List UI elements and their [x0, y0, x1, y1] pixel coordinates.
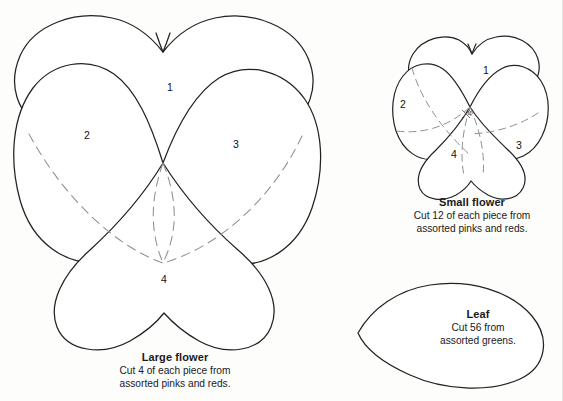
small-flower-piece-label-1: 1 [479, 65, 493, 76]
large-flower-piece-label-2: 2 [80, 130, 94, 141]
small-flower-center-mark-label: 4 [465, 110, 475, 117]
small-flower-piece-label-2: 2 [396, 99, 410, 110]
small-flower-caption: Small flower Cut 12 of each piece from a… [382, 196, 562, 235]
large-flower-caption-title: Large flower [60, 351, 290, 364]
large-flower-shape [14, 16, 321, 350]
small-flower-piece-label-4: 4 [447, 149, 461, 160]
large-flower-piece-label-3: 3 [229, 139, 243, 150]
small-flower-piece-label-3: 3 [512, 140, 526, 151]
large-flower-piece-label-1: 1 [163, 82, 177, 93]
small-flower-shape [393, 36, 549, 199]
small-flower-caption-line-2: assorted pinks and reds. [382, 223, 562, 235]
pattern-sheet: 1 2 3 4 1 2 3 4 4 Large flower Cut 4 of … [0, 0, 563, 401]
large-flower-caption-line-2: assorted pinks and reds. [60, 378, 290, 390]
leaf-caption-line-1: Cut 56 from [418, 322, 538, 334]
small-flower-caption-title: Small flower [382, 196, 562, 209]
small-flower-caption-line-1: Cut 12 of each piece from [382, 210, 562, 222]
leaf-caption-line-2: assorted greens. [418, 335, 538, 347]
large-flower-piece-label-4: 4 [157, 274, 171, 285]
leaf-caption: Leaf Cut 56 from assorted greens. [418, 308, 538, 347]
large-flower-caption: Large flower Cut 4 of each piece from as… [60, 351, 290, 390]
leaf-caption-title: Leaf [418, 308, 538, 321]
large-flower-caption-line-1: Cut 4 of each piece from [60, 365, 290, 377]
